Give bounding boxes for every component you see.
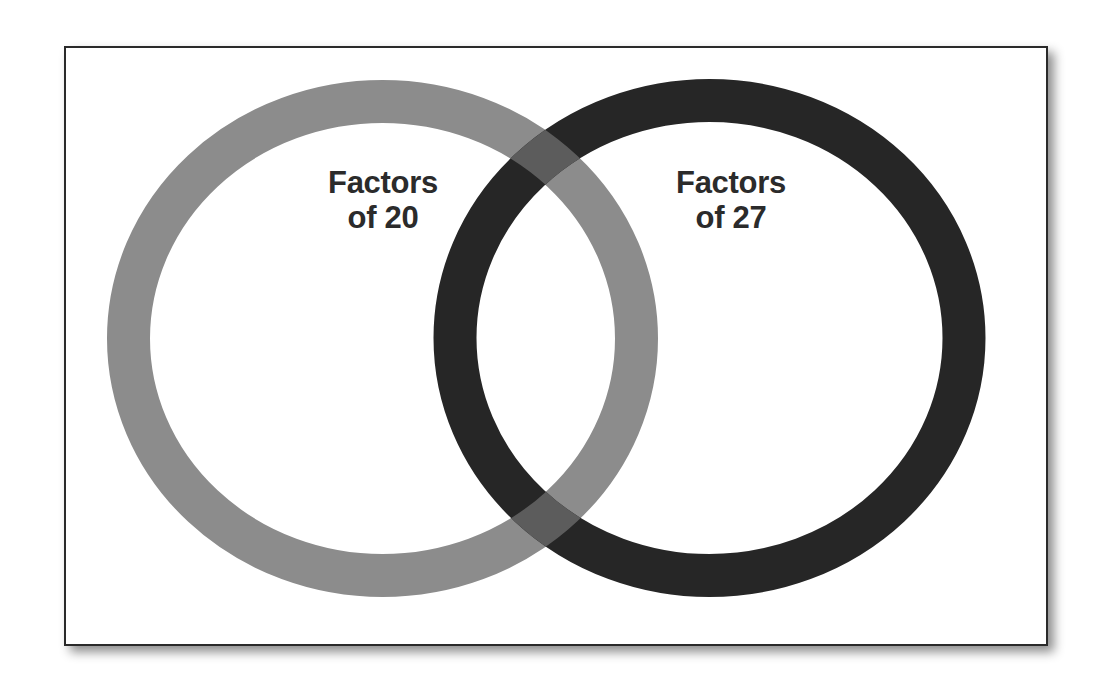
set-left-label-line2: of 20	[300, 200, 466, 235]
set-right-label: Factors of 27	[648, 165, 814, 235]
set-right-label-line2: of 27	[648, 200, 814, 235]
set-left-label: Factors of 20	[300, 165, 466, 235]
set-left-label-line1: Factors	[300, 165, 466, 200]
set-right-label-line1: Factors	[648, 165, 814, 200]
venn-diagram	[0, 0, 1118, 696]
